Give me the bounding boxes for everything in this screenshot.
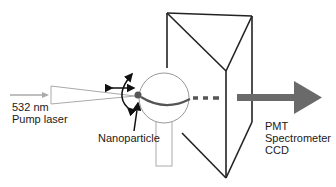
- nanoparticle-label: Nanoparticle: [98, 132, 160, 144]
- detectors-label: PMT Spectrometer CCD: [265, 120, 331, 156]
- setup-diagram: [0, 0, 336, 187]
- detector-spectrometer: Spectrometer: [265, 132, 331, 144]
- pump-wavelength: 532 nm: [12, 101, 68, 113]
- integrating-sphere: [139, 73, 189, 123]
- nanoparticle: [135, 92, 142, 99]
- pump-laser-label: 532 nm Pump laser: [12, 101, 68, 125]
- nanoparticle-pointer: [134, 103, 138, 131]
- manipulation-arrows-icon: [112, 74, 134, 108]
- pump-laser-arrow: [10, 92, 49, 98]
- output-beam-arrow: [237, 81, 322, 114]
- detector-pmt: PMT: [265, 120, 331, 132]
- detector-ccd: CCD: [265, 144, 331, 156]
- pump-name: Pump laser: [12, 113, 68, 125]
